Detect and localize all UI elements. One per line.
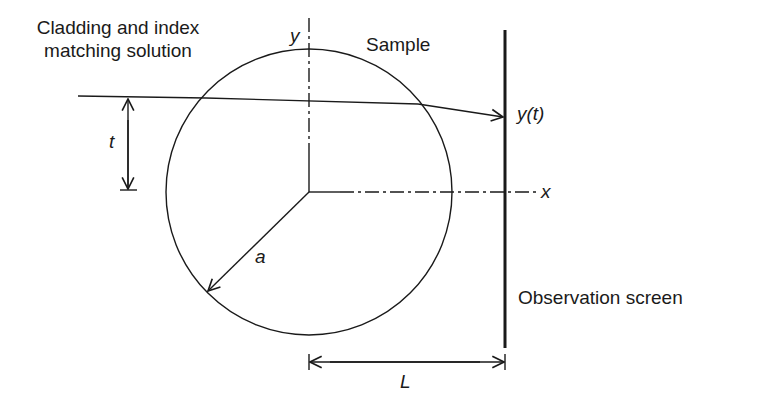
radius-a-arrow — [208, 192, 309, 291]
radius-a-label: a — [255, 247, 266, 266]
observation-screen-label: Observation screen — [518, 288, 683, 307]
x-axis-label: x — [541, 182, 551, 201]
exit-ray-arrow — [418, 104, 503, 117]
ray-inside-sample — [206, 98, 418, 104]
y-axis-label: y — [290, 26, 300, 45]
cladding-label-line2: matching solution — [2, 39, 234, 62]
sample-label: Sample — [366, 35, 430, 54]
t-label: t — [109, 132, 114, 151]
distance-L-label: L — [400, 372, 411, 391]
y-of-t-label: y(t) — [517, 104, 544, 123]
diagram-canvas — [0, 0, 760, 414]
cladding-label: Cladding and index matching solution — [2, 16, 234, 62]
incident-ray — [78, 96, 206, 98]
cladding-label-line1: Cladding and index — [2, 16, 234, 39]
